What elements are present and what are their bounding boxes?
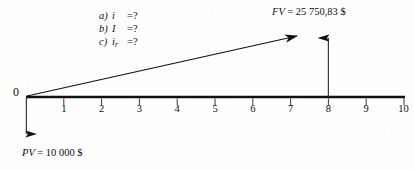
question-value-b: ? xyxy=(133,23,138,34)
axis-tick-label-8: 8 xyxy=(318,104,338,115)
axis-tick-label-6: 6 xyxy=(243,104,263,115)
future-value-label: FV = 25 750,83 $ xyxy=(272,7,346,18)
future-value-equals: = xyxy=(287,6,293,17)
scan-speckle xyxy=(211,10,212,11)
future-value-amount: 25 750,83 $ xyxy=(296,6,346,17)
question-value-c: ? xyxy=(133,36,138,47)
scan-speckle xyxy=(330,148,331,149)
axis-ticks xyxy=(64,98,404,105)
question-list: a)i=? b)I=? c)ir=? xyxy=(99,9,138,49)
scan-speckle xyxy=(57,40,58,41)
axis-tick-label-5: 5 xyxy=(205,104,225,115)
axis-tick-label-4: 4 xyxy=(167,104,187,115)
axis-origin-label: 0 xyxy=(13,86,19,98)
question-key-a: a) xyxy=(99,9,112,22)
timeline-figure: 0 1 2 3 4 5 6 7 8 9 10 FV = 25 750,83 $ … xyxy=(0,0,414,170)
scan-speckle xyxy=(150,158,151,159)
present-value-symbol: PV xyxy=(22,147,35,158)
axis-tick-label-7: 7 xyxy=(281,104,301,115)
question-item-a: a)i=? xyxy=(99,9,138,22)
question-item-c: c)ir=? xyxy=(99,35,138,49)
axis-tick-label-2: 2 xyxy=(92,104,112,115)
axis-tick-label-1: 1 xyxy=(54,104,74,115)
question-symbol-b: I xyxy=(112,22,127,35)
scan-speckle xyxy=(384,131,385,132)
present-value-label: PV = 10 000 $ xyxy=(22,148,83,159)
question-symbol-c-subscript: r xyxy=(115,40,118,49)
question-symbol-c: ir xyxy=(112,35,127,49)
question-key-b: b) xyxy=(99,22,112,35)
present-value-amount: 10 000 $ xyxy=(46,147,83,158)
timeline-drawing xyxy=(0,0,414,170)
axis-tick-label-10: 10 xyxy=(394,104,414,115)
present-value-equals: = xyxy=(37,147,43,158)
scan-speckle xyxy=(46,18,47,19)
question-symbol-a: i xyxy=(112,9,127,22)
scan-speckle xyxy=(22,74,23,75)
question-key-c: c) xyxy=(99,35,112,48)
axis-tick-label-9: 9 xyxy=(356,104,376,115)
growth-arrow xyxy=(27,36,297,96)
axis-tick-label-3: 3 xyxy=(129,104,149,115)
question-item-b: b)I=? xyxy=(99,22,138,35)
future-value-symbol: FV xyxy=(272,6,285,17)
question-value-a: ? xyxy=(133,10,138,21)
